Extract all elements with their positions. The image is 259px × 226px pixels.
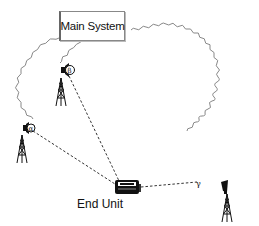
main-system-box: Main System — [59, 11, 125, 41]
diagram-canvas: β α γ — [0, 0, 259, 226]
end-unit-label: End Unit — [77, 197, 123, 211]
tower-left — [17, 135, 27, 163]
angle-label-alpha: α — [29, 125, 34, 133]
tower-top — [56, 78, 66, 106]
main-system-label: Main System — [60, 20, 124, 32]
wireless-link-top — [69, 76, 120, 183]
wired-link-right — [131, 23, 220, 131]
tower-right — [222, 194, 232, 222]
network-diagram: β α γ Main System End U — [0, 0, 259, 226]
wired-link-top — [60, 39, 82, 63]
antenna-right-icon — [221, 180, 228, 194]
wired-link-left — [16, 38, 60, 119]
wireless-link-left — [33, 131, 115, 184]
angle-label-gamma: γ — [196, 179, 201, 188]
end-unit-device-icon — [115, 180, 141, 194]
wireless-link-right — [141, 182, 197, 187]
angle-label-beta: β — [68, 67, 72, 75]
